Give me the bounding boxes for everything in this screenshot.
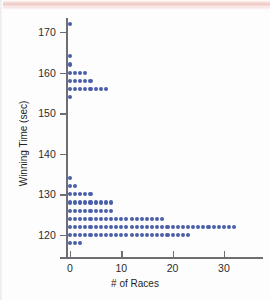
data-dot bbox=[155, 225, 159, 229]
data-dot bbox=[73, 233, 77, 237]
data-dot bbox=[160, 217, 164, 221]
data-dot bbox=[119, 225, 123, 229]
y-tick-mark bbox=[60, 32, 67, 33]
data-dot bbox=[176, 225, 180, 229]
data-dot bbox=[68, 95, 72, 99]
data-dot bbox=[68, 54, 72, 58]
data-dot bbox=[68, 79, 72, 83]
y-tick-mark bbox=[60, 235, 67, 236]
data-dot bbox=[186, 225, 190, 229]
data-dot bbox=[99, 87, 103, 91]
data-dot bbox=[78, 71, 82, 75]
data-dot bbox=[68, 192, 72, 196]
data-dot bbox=[160, 225, 164, 229]
data-dot bbox=[206, 225, 210, 229]
data-dot bbox=[150, 233, 154, 237]
data-dot bbox=[104, 233, 108, 237]
data-dot bbox=[160, 233, 164, 237]
data-dot bbox=[119, 217, 123, 221]
data-dot bbox=[88, 79, 92, 83]
data-dot bbox=[99, 200, 103, 204]
data-dot bbox=[124, 233, 128, 237]
data-dot bbox=[68, 209, 72, 213]
data-dot bbox=[68, 217, 72, 221]
data-dot bbox=[109, 200, 113, 204]
data-dot bbox=[68, 22, 72, 26]
data-dot bbox=[73, 241, 77, 245]
data-dot bbox=[124, 217, 128, 221]
data-dot bbox=[109, 209, 113, 213]
data-dot bbox=[104, 225, 108, 229]
data-dot bbox=[94, 87, 98, 91]
data-dot bbox=[78, 209, 82, 213]
data-dot bbox=[171, 225, 175, 229]
x-tick-mark bbox=[121, 251, 122, 258]
x-tick-mark bbox=[224, 251, 225, 258]
data-dot bbox=[176, 233, 180, 237]
data-dot bbox=[73, 79, 77, 83]
data-dot bbox=[94, 200, 98, 204]
data-dot bbox=[94, 225, 98, 229]
data-dot bbox=[155, 233, 159, 237]
data-dot bbox=[83, 209, 87, 213]
data-dot bbox=[181, 233, 185, 237]
data-dot bbox=[99, 217, 103, 221]
data-dot bbox=[130, 233, 134, 237]
data-dot bbox=[88, 217, 92, 221]
y-tick-label: 120 bbox=[22, 229, 56, 241]
data-dot bbox=[119, 233, 123, 237]
data-dot bbox=[73, 217, 77, 221]
data-dot bbox=[99, 225, 103, 229]
data-dot bbox=[94, 233, 98, 237]
x-axis-line bbox=[60, 257, 263, 259]
x-axis-title: # of Races bbox=[0, 278, 270, 289]
data-dot bbox=[99, 209, 103, 213]
data-dot bbox=[73, 87, 77, 91]
data-dot bbox=[109, 233, 113, 237]
data-dot bbox=[78, 241, 82, 245]
data-dot bbox=[109, 217, 113, 221]
data-dot bbox=[83, 233, 87, 237]
data-dot bbox=[78, 79, 82, 83]
data-dot bbox=[130, 217, 134, 221]
data-dot bbox=[186, 233, 190, 237]
data-dot bbox=[94, 217, 98, 221]
data-dot bbox=[78, 217, 82, 221]
y-tick-mark bbox=[60, 194, 67, 195]
y-tick-label: 170 bbox=[22, 26, 56, 38]
y-tick-mark bbox=[60, 113, 67, 114]
data-dot bbox=[73, 192, 77, 196]
y-tick-mark bbox=[60, 154, 67, 155]
y-tick-mark bbox=[60, 73, 67, 74]
data-dot bbox=[73, 71, 77, 75]
data-dot bbox=[135, 233, 139, 237]
data-dot bbox=[88, 200, 92, 204]
data-dot bbox=[68, 184, 72, 188]
data-dot bbox=[78, 225, 82, 229]
data-dot bbox=[140, 233, 144, 237]
x-tick-label: 30 bbox=[210, 262, 238, 274]
data-dot bbox=[135, 225, 139, 229]
data-dot bbox=[83, 192, 87, 196]
data-dot bbox=[78, 87, 82, 91]
data-dot bbox=[73, 184, 77, 188]
data-dot bbox=[130, 225, 134, 229]
data-dot bbox=[68, 87, 72, 91]
data-dot bbox=[78, 192, 82, 196]
data-dot bbox=[88, 87, 92, 91]
data-dot bbox=[124, 225, 128, 229]
data-dot bbox=[104, 200, 108, 204]
data-dot bbox=[232, 225, 236, 229]
data-dot bbox=[104, 209, 108, 213]
data-dot bbox=[83, 71, 87, 75]
data-dot bbox=[73, 209, 77, 213]
x-tick-label: 10 bbox=[107, 262, 135, 274]
data-dot bbox=[83, 200, 87, 204]
data-dot bbox=[145, 217, 149, 221]
data-dot bbox=[83, 87, 87, 91]
data-dot bbox=[145, 233, 149, 237]
data-dot bbox=[135, 217, 139, 221]
data-dot bbox=[94, 209, 98, 213]
data-dot bbox=[68, 200, 72, 204]
data-dot bbox=[196, 225, 200, 229]
